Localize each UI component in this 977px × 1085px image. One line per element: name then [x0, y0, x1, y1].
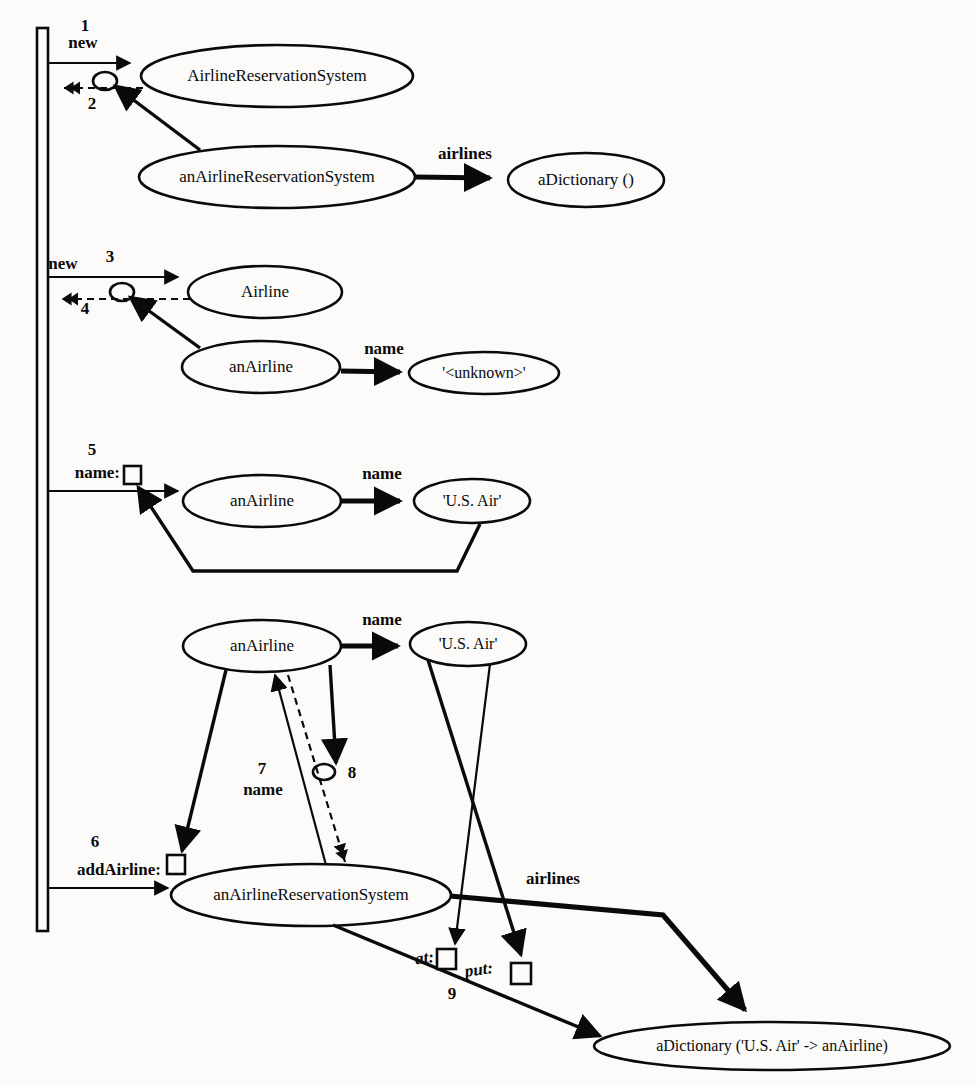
object-interaction-diagram: new 1 2 AirlineReservationSystem anAirli…	[0, 0, 977, 1085]
argument-path-an-airline	[182, 670, 226, 851]
diagram-canvas: new 1 2 AirlineReservationSystem anAirli…	[0, 0, 977, 1085]
sequence-number-6: 6	[91, 832, 100, 851]
node-label-value-usair-bottom: 'U.S. Air'	[439, 635, 498, 652]
argument-marker-put[interactable]	[511, 963, 531, 984]
actor-lifeline	[37, 28, 48, 931]
message-label-name-set: name:	[75, 463, 120, 482]
attr-label-airlines-top: airlines	[438, 144, 492, 163]
node-label-a-dictionary-populated: aDictionary ('U.S. Air' -> anAirline)	[656, 1037, 888, 1055]
node-label-value-usair-mid: 'U.S. Air'	[443, 492, 502, 509]
node-label-an-airline-reservation-system-bottom: anAirlineReservationSystem	[213, 885, 408, 904]
sequence-number-1: 1	[81, 16, 90, 35]
sequence-number-2: 2	[88, 94, 97, 113]
argument-marker-6[interactable]	[167, 855, 185, 874]
message-label-new-2: new	[48, 254, 78, 273]
instantiation-link-airline	[130, 297, 200, 348]
link-airlines-top	[415, 177, 490, 178]
attr-label-name-usair-bot: name	[362, 610, 402, 629]
node-label-an-airline-bottom: anAirline	[230, 636, 294, 655]
argument-marker-5[interactable]	[124, 466, 141, 484]
sequence-number-8: 8	[348, 763, 357, 782]
node-label-an-airline-group3: anAirline	[230, 491, 294, 510]
node-label-an-airline-reservation-system-top: anAirlineReservationSystem	[179, 167, 374, 186]
sequence-number-5: 5	[88, 440, 97, 459]
message-label-add-airline: addAirline:	[77, 860, 161, 879]
node-label-airline-reservation-system-class: AirlineReservationSystem	[187, 66, 366, 85]
sequence-number-7: 7	[258, 759, 267, 778]
attr-label-name-unknown: name	[364, 339, 404, 358]
keyword-label-at: at:	[414, 947, 435, 968]
message-name-get[interactable]	[275, 675, 330, 880]
message-label-name-get: name	[243, 780, 283, 799]
message-label-new-1: new	[68, 33, 98, 52]
sequence-number-3: 3	[106, 247, 115, 266]
keyword-label-put: put:	[461, 958, 494, 981]
link-name-unknown	[341, 371, 400, 372]
node-label-an-airline-group2: anAirline	[229, 357, 293, 376]
sequence-number-4: 4	[81, 299, 90, 318]
return-airline[interactable]	[60, 283, 190, 301]
return-name[interactable]	[288, 675, 345, 862]
argument-path-usair-put	[428, 660, 521, 955]
result-link-usair-to-return	[330, 665, 336, 763]
node-label-airline-class: Airline	[241, 282, 289, 301]
node-label-a-dictionary-empty: aDictionary ()	[538, 170, 634, 189]
attr-label-name-usair-mid: name	[362, 464, 402, 483]
return-ars[interactable]	[62, 72, 143, 90]
argument-marker-at[interactable]	[437, 949, 456, 969]
node-label-value-unknown: '<unknown>'	[442, 364, 525, 381]
sequence-number-9: 9	[448, 984, 457, 1003]
attr-label-airlines-bottom: airlines	[526, 869, 580, 888]
